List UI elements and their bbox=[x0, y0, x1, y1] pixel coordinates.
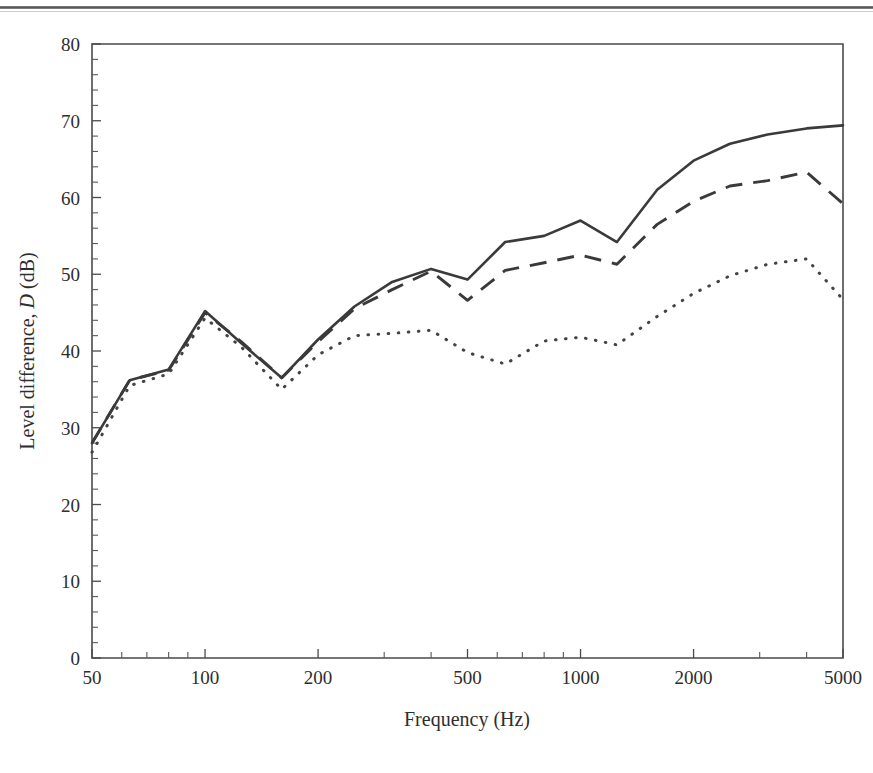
chart-figure: 50100200500100020005000 0102030405060708… bbox=[0, 0, 873, 773]
y-tick-label: 20 bbox=[61, 495, 80, 516]
x-tick-label: 200 bbox=[304, 667, 333, 688]
series-line-solid bbox=[92, 125, 843, 443]
x-tick-label: 2000 bbox=[675, 667, 713, 688]
x-tick-label: 100 bbox=[191, 667, 220, 688]
x-tick-label: 5000 bbox=[824, 667, 862, 688]
y-tick-label: 0 bbox=[71, 648, 81, 669]
y-tick-label: 70 bbox=[61, 111, 80, 132]
x-axis-label: Frequency (Hz) bbox=[404, 708, 530, 731]
y-axis-label: Level difference, D (dB) bbox=[16, 252, 39, 449]
data-series-group bbox=[92, 125, 843, 452]
y-tick-label: 30 bbox=[61, 418, 80, 439]
y-tick-label: 10 bbox=[61, 571, 80, 592]
x-tick-label: 1000 bbox=[562, 667, 600, 688]
x-tick-label: 500 bbox=[453, 667, 482, 688]
y-axis-label-group: Level difference, D (dB) bbox=[16, 252, 39, 449]
y-tick-label: 60 bbox=[61, 188, 80, 209]
series-line-dashed bbox=[92, 172, 843, 443]
figure-page: 50100200500100020005000 0102030405060708… bbox=[0, 0, 873, 773]
y-tick-label: 50 bbox=[61, 264, 80, 285]
y-tick-label: 80 bbox=[61, 34, 80, 55]
level-difference-chart: 50100200500100020005000 0102030405060708… bbox=[0, 0, 873, 773]
y-axis-tick-labels: 01020304050607080 bbox=[61, 34, 80, 669]
plot-frame bbox=[92, 44, 843, 658]
x-axis-tick-labels: 50100200500100020005000 bbox=[83, 667, 863, 688]
y-axis-ticks bbox=[92, 44, 101, 658]
y-tick-label: 40 bbox=[61, 341, 80, 362]
x-axis-ticks bbox=[92, 649, 843, 658]
series-line-dotted bbox=[92, 259, 843, 452]
x-tick-label: 50 bbox=[83, 667, 102, 688]
